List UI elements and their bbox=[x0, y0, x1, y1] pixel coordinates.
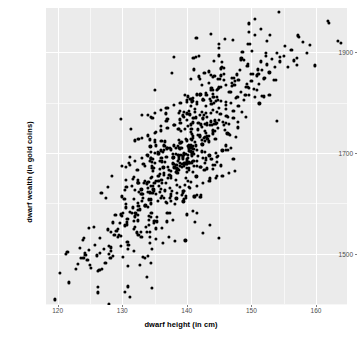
data-point bbox=[175, 197, 178, 200]
data-point bbox=[128, 163, 131, 166]
data-point bbox=[223, 66, 226, 69]
data-point bbox=[259, 60, 262, 63]
data-point bbox=[301, 41, 304, 44]
data-point bbox=[76, 262, 79, 265]
data-point bbox=[290, 48, 293, 51]
data-point bbox=[112, 221, 115, 224]
data-point bbox=[203, 169, 206, 172]
data-point bbox=[169, 148, 172, 151]
data-point bbox=[212, 60, 215, 63]
data-point bbox=[172, 104, 175, 107]
data-point bbox=[88, 248, 91, 251]
data-point bbox=[190, 100, 193, 103]
data-point bbox=[223, 38, 226, 41]
data-point bbox=[104, 196, 107, 199]
data-point bbox=[215, 110, 218, 113]
data-point bbox=[140, 200, 143, 203]
data-point bbox=[163, 172, 166, 175]
data-point bbox=[159, 109, 162, 112]
data-point bbox=[156, 199, 159, 202]
data-point bbox=[250, 79, 253, 82]
x-tick-label: 160 bbox=[311, 307, 322, 314]
data-point bbox=[82, 257, 85, 260]
y-axis-title: dwarf wealth (in gold coins) bbox=[25, 62, 35, 282]
data-point bbox=[265, 39, 268, 42]
data-point bbox=[218, 106, 221, 109]
data-point bbox=[152, 166, 155, 169]
data-point bbox=[123, 197, 126, 200]
data-point bbox=[86, 259, 89, 262]
data-point bbox=[128, 295, 131, 298]
data-point bbox=[220, 61, 223, 64]
data-point bbox=[139, 230, 142, 233]
data-point bbox=[211, 157, 214, 160]
data-point bbox=[217, 43, 220, 46]
data-point bbox=[246, 64, 249, 67]
data-point bbox=[137, 219, 140, 222]
data-point bbox=[251, 49, 254, 52]
data-point bbox=[102, 248, 105, 251]
data-point bbox=[185, 139, 188, 142]
data-point bbox=[87, 226, 90, 229]
data-point bbox=[197, 154, 200, 157]
data-point bbox=[150, 211, 153, 214]
data-point bbox=[327, 22, 330, 25]
data-point bbox=[184, 128, 187, 131]
x-axis-title: dwarf height (in cm) bbox=[0, 320, 362, 329]
data-point bbox=[179, 101, 182, 104]
data-point bbox=[244, 115, 247, 118]
data-point bbox=[144, 226, 147, 229]
data-point bbox=[209, 111, 212, 114]
data-point bbox=[199, 166, 202, 169]
data-point bbox=[238, 68, 241, 71]
data-point bbox=[140, 136, 143, 139]
data-point bbox=[131, 206, 134, 209]
data-point bbox=[209, 32, 212, 35]
data-point bbox=[143, 256, 146, 259]
data-point bbox=[268, 71, 271, 74]
data-point bbox=[180, 193, 183, 196]
data-point bbox=[191, 170, 194, 173]
data-point bbox=[236, 120, 239, 123]
data-point bbox=[224, 104, 227, 107]
data-point bbox=[161, 150, 164, 153]
data-point bbox=[208, 223, 211, 226]
data-point bbox=[215, 88, 218, 91]
data-point bbox=[174, 178, 177, 181]
y-tick-mark bbox=[355, 52, 357, 53]
data-point bbox=[119, 117, 122, 120]
data-point bbox=[155, 144, 158, 147]
data-point bbox=[110, 175, 113, 178]
data-point bbox=[236, 126, 239, 129]
data-point bbox=[125, 223, 128, 226]
data-point bbox=[214, 99, 217, 102]
data-point bbox=[259, 27, 262, 30]
data-point bbox=[154, 130, 157, 133]
data-point bbox=[305, 52, 308, 55]
data-point bbox=[184, 239, 187, 242]
data-point bbox=[165, 202, 168, 205]
data-point bbox=[160, 227, 163, 230]
data-point bbox=[179, 129, 182, 132]
data-point bbox=[90, 266, 93, 269]
data-point bbox=[133, 188, 136, 191]
data-point bbox=[233, 79, 236, 82]
data-point bbox=[221, 149, 224, 152]
data-point bbox=[119, 245, 122, 248]
data-point bbox=[169, 192, 172, 195]
data-point bbox=[121, 256, 124, 259]
data-point bbox=[295, 56, 298, 59]
data-point bbox=[166, 176, 169, 179]
data-point bbox=[131, 177, 134, 180]
data-point bbox=[140, 188, 143, 191]
data-point bbox=[215, 174, 218, 177]
data-point bbox=[141, 192, 144, 195]
data-point bbox=[169, 199, 172, 202]
data-point bbox=[99, 251, 102, 254]
data-point bbox=[277, 10, 280, 13]
data-point bbox=[226, 148, 229, 151]
data-point bbox=[158, 167, 161, 170]
data-point bbox=[149, 145, 152, 148]
data-point bbox=[224, 107, 227, 110]
data-point bbox=[273, 65, 276, 68]
